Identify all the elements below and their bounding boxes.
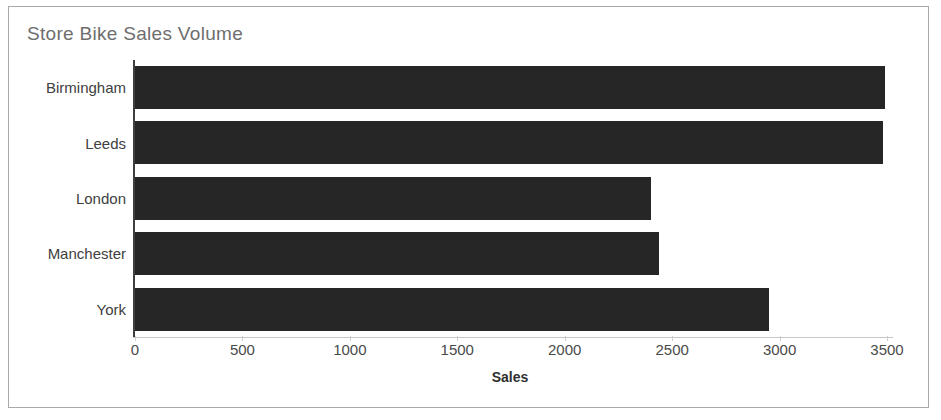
bar[interactable]: [135, 288, 769, 331]
x-axis-tick-label: 500: [230, 341, 255, 358]
x-axis-tick-mark: [242, 336, 243, 341]
x-axis-tick-label: 2500: [655, 341, 688, 358]
y-axis-category-label: Manchester: [9, 226, 132, 281]
x-axis-tick-mark: [887, 336, 888, 341]
x-axis-tick-mark: [135, 336, 136, 341]
x-axis-tick-labels: 0500100015002000250030003500: [133, 341, 893, 365]
chart-frame: Store Bike Sales Volume BirminghamLeedsL…: [8, 6, 929, 408]
bar[interactable]: [135, 121, 883, 164]
plot-area: [133, 60, 887, 337]
x-axis-tick-mark: [565, 336, 566, 341]
x-axis-tick-label: 1000: [333, 341, 366, 358]
bar-series: [135, 60, 887, 337]
bar[interactable]: [135, 232, 659, 275]
x-axis-tick-mark: [672, 336, 673, 341]
y-axis-category-label: London: [9, 171, 132, 226]
y-axis-category-label: Birmingham: [9, 60, 132, 115]
x-axis-tick-label: 1500: [441, 341, 474, 358]
x-axis-tick-label: 2000: [548, 341, 581, 358]
y-axis-category-label: Leeds: [9, 115, 132, 170]
bar[interactable]: [135, 66, 885, 109]
bar-row: [135, 115, 887, 170]
y-axis-category-label: York: [9, 282, 132, 337]
chart-screenshot: Store Bike Sales Volume BirminghamLeedsL…: [0, 0, 941, 420]
x-axis-tick-mark: [350, 336, 351, 341]
bar[interactable]: [135, 177, 651, 220]
x-axis-tick-label: 3000: [763, 341, 796, 358]
x-axis-tick-label: 0: [131, 341, 139, 358]
bar-row: [135, 226, 887, 281]
x-axis-tick-mark: [780, 336, 781, 341]
bar-row: [135, 282, 887, 337]
x-axis-tick-mark: [457, 336, 458, 341]
chart-title: Store Bike Sales Volume: [27, 23, 243, 45]
x-axis-title: Sales: [133, 369, 887, 385]
y-axis-category-labels: BirminghamLeedsLondonManchesterYork: [9, 60, 132, 337]
x-axis-tick-label: 3500: [870, 341, 903, 358]
bar-row: [135, 60, 887, 115]
bar-row: [135, 171, 887, 226]
